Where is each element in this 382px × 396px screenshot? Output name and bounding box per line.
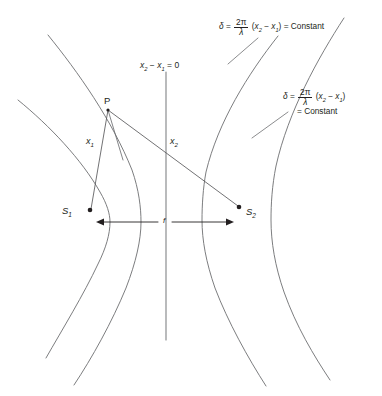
- ray-x2-subscript: 2: [175, 141, 178, 148]
- equation-mid-right-line1: δ = 2π λ (x2 − x1): [283, 88, 345, 106]
- paren-close-mid: ): [343, 91, 346, 101]
- center-axis-zero: 0: [174, 60, 179, 70]
- minus-mid: −: [328, 91, 333, 101]
- equation-mid-right-line2: = Constant: [297, 107, 345, 117]
- source-s2-subscript: 2: [252, 212, 256, 219]
- source-s1-subscript: 1: [68, 211, 72, 218]
- x-subscript-mid-a: 2: [323, 97, 326, 103]
- equals-top-2: =: [284, 21, 289, 31]
- leader-line-top-equation: [228, 38, 258, 64]
- equation-mid-right: δ = 2π λ (x2 − x1) = Constant: [283, 88, 345, 117]
- center-axis-equals: =: [167, 60, 172, 70]
- constant-top: Constant: [291, 21, 324, 31]
- source-point-s2-dot: [237, 205, 242, 210]
- fraction-two-pi-over-lambda-mid: 2π λ: [298, 88, 312, 106]
- hyperbola-right-inner: [202, 36, 278, 386]
- diagram-vector-art: [0, 0, 382, 396]
- ray-label-x2: x2: [170, 136, 178, 148]
- center-axis-minus: −: [150, 60, 155, 70]
- arrow-right: [172, 219, 234, 226]
- delta-symbol-top: δ: [219, 21, 224, 31]
- delta-symbol-mid: δ: [283, 91, 288, 101]
- fraction-numerator-top: 2π: [234, 18, 248, 27]
- fraction-numerator-mid: 2π: [298, 88, 312, 97]
- center-axis-sub-a: 2: [144, 66, 147, 72]
- focal-marker-label: f: [163, 216, 165, 225]
- fraction-denominator-top: λ: [234, 27, 248, 37]
- hyperbola-left-inner: [18, 100, 110, 358]
- source-point-s1-dot: [88, 208, 93, 213]
- equation-top-right: δ = 2π λ (x2 − x1) = Constant: [219, 18, 324, 36]
- hyperbola-right-outer: [271, 18, 344, 380]
- center-axis-sub-b: 1: [161, 66, 164, 72]
- source-label-s2: S2: [246, 207, 256, 219]
- ray-x1-p-to-s1: [91, 110, 108, 209]
- x-subscript-top-a: 2: [259, 27, 262, 33]
- figure-canvas: δ = 2π λ (x2 − x1) = Constant δ = 2π λ (…: [0, 0, 382, 396]
- point-p-dot: [106, 108, 109, 111]
- source-label-s1: S1: [62, 206, 72, 218]
- paren-close-top: ): [279, 21, 282, 31]
- point-p-label: P: [104, 96, 110, 107]
- ray-x2-p-to-s2: [108, 110, 238, 206]
- arrow-left: [96, 219, 158, 226]
- minus-top: −: [264, 21, 269, 31]
- ray-label-x1: x1: [86, 136, 94, 148]
- ray-x1-subscript: 1: [91, 141, 94, 148]
- equals-top-1: =: [226, 21, 231, 31]
- ray-p-stub: [108, 110, 123, 160]
- fraction-two-pi-over-lambda-top: 2π λ: [234, 18, 248, 36]
- fraction-denominator-mid: λ: [298, 97, 312, 107]
- equals-mid-1: =: [290, 91, 295, 101]
- center-axis-label: x2 − x1 = 0: [140, 61, 179, 72]
